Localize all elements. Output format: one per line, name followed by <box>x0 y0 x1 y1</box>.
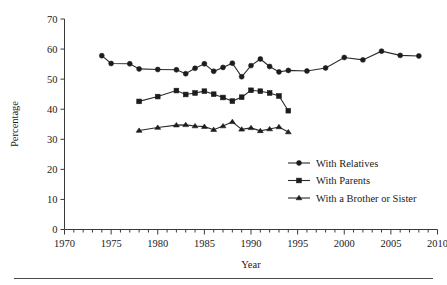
data-point-circle <box>267 64 272 69</box>
y-tick-label: 70 <box>47 14 58 25</box>
x-tick-label: 1990 <box>241 238 262 249</box>
series-line <box>102 51 419 77</box>
y-tick-label: 40 <box>47 104 58 115</box>
data-point-square <box>221 95 226 100</box>
y-tick-label: 50 <box>47 74 58 85</box>
x-axis-title: Year <box>241 259 261 270</box>
data-point-circle <box>211 69 216 74</box>
data-point-circle <box>416 54 421 59</box>
data-point-circle <box>297 161 302 166</box>
legend-label: With Relatives <box>316 158 378 169</box>
data-point-triangle <box>285 129 291 133</box>
y-tick-label: 60 <box>47 44 58 55</box>
data-point-circle <box>109 61 114 66</box>
data-point-square <box>258 89 263 94</box>
legend-item-1: With Relatives <box>288 158 378 169</box>
data-point-circle <box>137 66 142 71</box>
y-tick-group <box>61 19 65 230</box>
x-tick-label: 2000 <box>334 238 355 249</box>
data-point-circle <box>277 69 282 74</box>
line-chart: 010203040506070 197019751980198519901995… <box>0 0 447 285</box>
data-point-triangle <box>276 124 282 128</box>
y-tick-label: 30 <box>47 134 58 145</box>
data-point-circle <box>304 69 309 74</box>
x-tick-label: 2010 <box>427 238 447 249</box>
y-tick-label: 10 <box>47 194 58 205</box>
x-tick-label: 1980 <box>147 238 168 249</box>
data-point-circle <box>183 71 188 76</box>
data-point-circle <box>127 61 132 66</box>
y-axis: 010203040506070 <box>47 14 65 236</box>
x-tick-label: 2005 <box>380 238 401 249</box>
legend-item-2: With Parents <box>288 175 370 186</box>
data-point-square <box>155 94 160 99</box>
data-point-square <box>174 88 179 93</box>
x-tick-label: 1995 <box>287 238 308 249</box>
data-point-circle <box>258 57 263 62</box>
data-point-square <box>277 94 282 99</box>
data-point-square <box>267 91 272 96</box>
data-point-square <box>211 92 216 97</box>
y-tick-label-group: 010203040506070 <box>47 14 58 236</box>
legend-item-3: With a Brother or Sister <box>288 193 417 204</box>
legend-label: With Parents <box>316 175 370 186</box>
data-point-square <box>286 108 291 113</box>
data-point-triangle <box>229 119 235 123</box>
data-point-circle <box>286 68 291 73</box>
series-with-a-brother-or-sister <box>136 119 291 134</box>
series-with-parents <box>137 88 291 113</box>
data-point-circle <box>221 65 226 70</box>
data-point-square <box>239 95 244 100</box>
data-point-circle <box>202 61 207 66</box>
data-point-square <box>249 88 254 93</box>
data-point-circle <box>249 63 254 68</box>
x-axis: 197019751980198519901995200020052010 <box>54 230 447 249</box>
data-point-square <box>297 178 302 183</box>
y-axis-title: Percentage <box>9 101 20 147</box>
data-point-circle <box>193 66 198 71</box>
series-with-relatives <box>99 49 421 79</box>
data-point-circle <box>174 67 179 72</box>
data-point-square <box>193 91 198 96</box>
y-tick-label: 0 <box>52 224 57 235</box>
data-point-circle <box>230 61 235 66</box>
data-point-circle <box>323 66 328 71</box>
data-point-square <box>137 99 142 104</box>
x-tick-label-group: 197019751980198519901995200020052010 <box>54 238 447 249</box>
series-group <box>99 49 421 134</box>
legend-label: With a Brother or Sister <box>316 193 417 204</box>
data-point-triangle <box>248 125 254 129</box>
x-tick-label: 1975 <box>101 238 122 249</box>
data-point-circle <box>99 53 104 58</box>
data-point-circle <box>379 49 384 54</box>
data-point-square <box>202 89 207 94</box>
data-point-circle <box>155 67 160 72</box>
data-point-circle <box>239 74 244 79</box>
y-tick-label: 20 <box>47 164 58 175</box>
data-point-circle <box>360 57 365 62</box>
x-tick-label: 1985 <box>194 238 215 249</box>
data-point-circle <box>342 55 347 60</box>
chart-legend: With RelativesWith ParentsWith a Brother… <box>288 158 417 204</box>
x-tick-label: 1970 <box>54 238 75 249</box>
data-point-circle <box>398 53 403 58</box>
data-point-square <box>183 92 188 97</box>
chart-figure: 010203040506070 197019751980198519901995… <box>0 0 447 285</box>
data-point-square <box>230 99 235 104</box>
